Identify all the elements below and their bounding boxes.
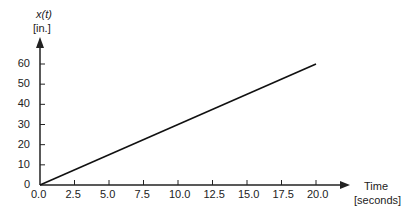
x-tick-label: 10.0: [169, 188, 190, 200]
y-tick-label: 30: [18, 118, 30, 130]
x-tick-label: 5.0: [100, 188, 115, 200]
x-tick-label: 2.5: [66, 188, 81, 200]
y-axis-unit: [in.]: [33, 22, 51, 34]
y-axis-label: x(t): [36, 8, 52, 20]
y-tick-label: 0: [24, 178, 30, 190]
x-axis-label: Time: [364, 180, 388, 192]
x-tick-label: 12.5: [204, 188, 225, 200]
line-chart-svg: [0, 0, 417, 216]
x-axis-unit: [seconds]: [354, 194, 401, 206]
y-axis-arrow-icon: [36, 37, 44, 48]
chart-area: x(t) [in.] Time [seconds] 0.02.55.07.510…: [0, 0, 417, 216]
x-tick-label: 0.0: [31, 188, 46, 200]
x-tick-label: 20.0: [307, 188, 328, 200]
y-tick-label: 50: [18, 77, 30, 89]
x-tick-label: 7.5: [135, 188, 150, 200]
x-tick-label: 17.5: [273, 188, 294, 200]
y-tick-label: 10: [18, 158, 30, 170]
x-tick-label: 15.0: [238, 188, 259, 200]
y-tick-label: 20: [18, 138, 30, 150]
y-tick-label: 40: [18, 97, 30, 109]
y-tick-label: 60: [18, 57, 30, 69]
data-line: [40, 64, 316, 185]
x-axis-arrow-icon: [340, 181, 350, 189]
